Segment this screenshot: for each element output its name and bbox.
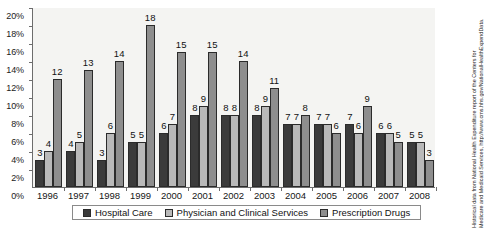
y-axis-tick xyxy=(29,8,33,9)
x-axis-label-1997: 1997 xyxy=(68,190,89,201)
y-axis-tick-label: 2% xyxy=(11,173,24,183)
y-axis-tick-label: 6% xyxy=(11,137,24,147)
bar-value-label: 6 xyxy=(161,121,166,131)
legend-swatch-icon xyxy=(320,209,328,217)
bar-2002-series-0: 8 xyxy=(221,115,230,187)
legend-label: Physician and Clinical Services xyxy=(177,208,308,218)
bar-group: 3412 xyxy=(35,8,61,187)
bar-value-label: 6 xyxy=(356,121,361,131)
x-axis-label-2008: 2008 xyxy=(409,190,430,201)
bar-2006-series-1: 6 xyxy=(354,133,363,187)
bar-2001-series-1: 9 xyxy=(199,106,208,187)
bar-1999-series-1: 5 xyxy=(137,142,146,187)
bar-group: 776 xyxy=(314,8,340,187)
bar-2005-series-1: 7 xyxy=(323,124,332,187)
bar-value-label: 11 xyxy=(269,76,279,86)
bar-group: 3614 xyxy=(97,8,123,187)
bar-value-label: 7 xyxy=(285,112,290,122)
bar-1998-series-1: 6 xyxy=(106,133,115,187)
source-note: Historical data from National Health Exp… xyxy=(458,0,484,233)
bar-2001-series-0: 8 xyxy=(190,115,199,187)
bar-group: 6715 xyxy=(159,8,185,187)
bar-value-label: 6 xyxy=(387,121,392,131)
bar-2006-series-2: 9 xyxy=(363,106,372,187)
bar-2003-series-0: 8 xyxy=(252,115,261,187)
bar-value-label: 7 xyxy=(170,112,175,122)
bar-2002-series-2: 14 xyxy=(239,61,248,187)
source-note-line-1: Historical data from National Health Exp… xyxy=(471,51,477,228)
bar-2000-series-0: 6 xyxy=(159,133,168,187)
plot-area: 3412451336145518671589158814891177877676… xyxy=(32,8,435,188)
bar-value-label: 15 xyxy=(176,40,187,50)
bar-2006-series-0: 7 xyxy=(345,124,354,187)
bar-2003-series-2: 11 xyxy=(270,88,279,187)
x-axis-label-2003: 2003 xyxy=(254,190,275,201)
legend-label: Hospital Care xyxy=(95,208,153,218)
y-axis-tick-label: 14% xyxy=(6,65,24,75)
bar-value-label: 3 xyxy=(99,148,104,158)
x-axis-label-2006: 2006 xyxy=(347,190,368,201)
y-axis-tick-label: 10% xyxy=(6,101,24,111)
bar-value-label: 15 xyxy=(207,40,218,50)
x-axis-label-1998: 1998 xyxy=(99,190,120,201)
bar-value-label: 9 xyxy=(263,94,268,104)
bar-1998-series-2: 14 xyxy=(115,61,124,187)
bar-group: 8911 xyxy=(252,8,278,187)
plot-frame: 3412451336145518671589158814891177877676… xyxy=(32,8,435,188)
bar-2005-series-0: 7 xyxy=(314,124,323,187)
bar-1996-series-0: 3 xyxy=(35,160,44,187)
x-axis-label-1996: 1996 xyxy=(37,190,58,201)
bar-2004-series-1: 7 xyxy=(292,124,301,187)
bar-2000-series-2: 15 xyxy=(177,52,186,187)
bar-1997-series-1: 5 xyxy=(75,142,84,187)
bar-value-label: 5 xyxy=(130,130,135,140)
y-axis-tick-label: 8% xyxy=(11,119,24,129)
bar-value-label: 5 xyxy=(418,130,423,140)
x-axis-label-2000: 2000 xyxy=(161,190,182,201)
bar-value-label: 14 xyxy=(238,49,249,59)
bar-value-label: 7 xyxy=(294,112,299,122)
x-axis-label-2004: 2004 xyxy=(285,190,306,201)
y-axis: 0%2%4%6%8%10%12%14%16%18%20% xyxy=(0,16,30,196)
bar-value-label: 4 xyxy=(68,139,73,149)
bar-value-label: 3 xyxy=(37,148,42,158)
bar-2004-series-2: 8 xyxy=(301,115,310,187)
bar-value-label: 8 xyxy=(303,103,308,113)
y-axis-tick-label: 0% xyxy=(11,191,24,201)
bar-value-label: 9 xyxy=(201,94,206,104)
bar-value-label: 5 xyxy=(409,130,414,140)
bar-value-label: 4 xyxy=(46,139,51,149)
bar-value-label: 7 xyxy=(325,112,330,122)
bar-value-label: 8 xyxy=(232,103,237,113)
x-axis-tick xyxy=(436,187,437,191)
bar-2003-series-1: 9 xyxy=(261,106,270,187)
bar-2002-series-1: 8 xyxy=(230,115,239,187)
x-axis-labels: 1996199719981999200020012002200320042005… xyxy=(32,190,435,206)
bar-2000-series-1: 7 xyxy=(168,124,177,187)
bar-group: 5518 xyxy=(128,8,154,187)
bar-2008-series-0: 5 xyxy=(407,142,416,187)
legend-item-series-2[interactable]: Prescription Drugs xyxy=(320,208,410,218)
bar-group: 769 xyxy=(345,8,371,187)
bar-2007-series-0: 6 xyxy=(376,133,385,187)
y-axis-tick-label: 16% xyxy=(6,47,24,57)
bar-value-label: 8 xyxy=(254,103,259,113)
bar-1999-series-0: 5 xyxy=(128,142,137,187)
bar-value-label: 7 xyxy=(316,112,321,122)
bar-2008-series-1: 5 xyxy=(416,142,425,187)
bar-value-label: 14 xyxy=(114,49,125,59)
bar-group: 8915 xyxy=(190,8,216,187)
x-axis-label-2007: 2007 xyxy=(378,190,399,201)
bar-value-label: 6 xyxy=(378,121,383,131)
legend-item-series-1[interactable]: Physician and Clinical Services xyxy=(165,208,308,218)
bar-value-label: 5 xyxy=(139,130,144,140)
bar-2005-series-2: 6 xyxy=(332,133,341,187)
legend-swatch-icon xyxy=(83,209,91,217)
bar-2001-series-2: 15 xyxy=(208,52,217,187)
bar-value-label: 6 xyxy=(108,121,113,131)
bar-1998-series-0: 3 xyxy=(97,160,106,187)
bar-1999-series-2: 18 xyxy=(146,25,155,187)
bar-2004-series-0: 7 xyxy=(283,124,292,187)
legend-item-series-0[interactable]: Hospital Care xyxy=(83,208,153,218)
bar-value-label: 13 xyxy=(83,58,94,68)
